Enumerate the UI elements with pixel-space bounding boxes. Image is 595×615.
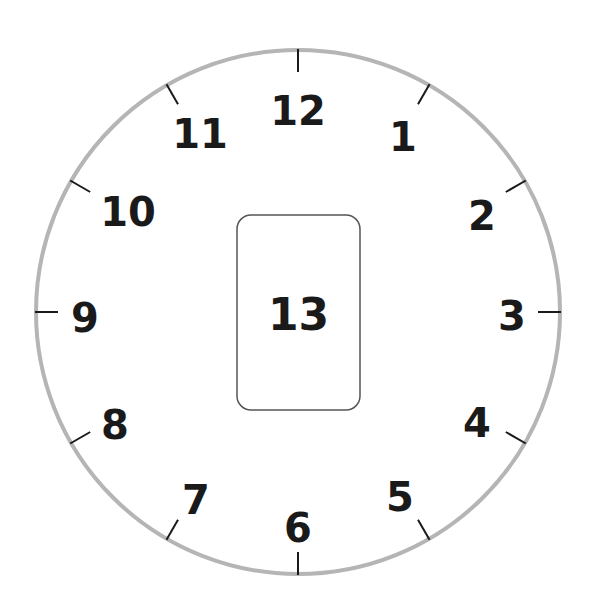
hour-numeral-12: 12	[270, 88, 326, 134]
hour-numeral-2: 2	[468, 193, 496, 239]
clock-face-diagram: 121234567891011 13	[0, 0, 595, 615]
hour-tick-10	[70, 181, 90, 193]
hour-tick-4	[506, 432, 526, 444]
hour-numeral-4: 4	[463, 400, 491, 446]
hour-tick-7	[167, 520, 179, 540]
hour-numeral-1: 1	[389, 114, 417, 160]
hour-tick-2	[506, 181, 526, 193]
hour-numeral-10: 10	[100, 189, 156, 235]
hour-numeral-9: 9	[71, 295, 99, 341]
hour-numeral-8: 8	[101, 402, 129, 448]
hour-numeral-11: 11	[172, 111, 228, 157]
hour-numeral-6: 6	[284, 505, 312, 551]
hour-tick-1	[418, 84, 430, 104]
hour-tick-5	[418, 520, 430, 540]
hour-numeral-7: 7	[182, 477, 210, 523]
hour-numeral-3: 3	[498, 293, 526, 339]
center-box-label: 13	[268, 289, 329, 340]
hour-numeral-5: 5	[386, 474, 414, 520]
hour-tick-11	[167, 84, 179, 104]
hour-tick-8	[70, 432, 90, 444]
